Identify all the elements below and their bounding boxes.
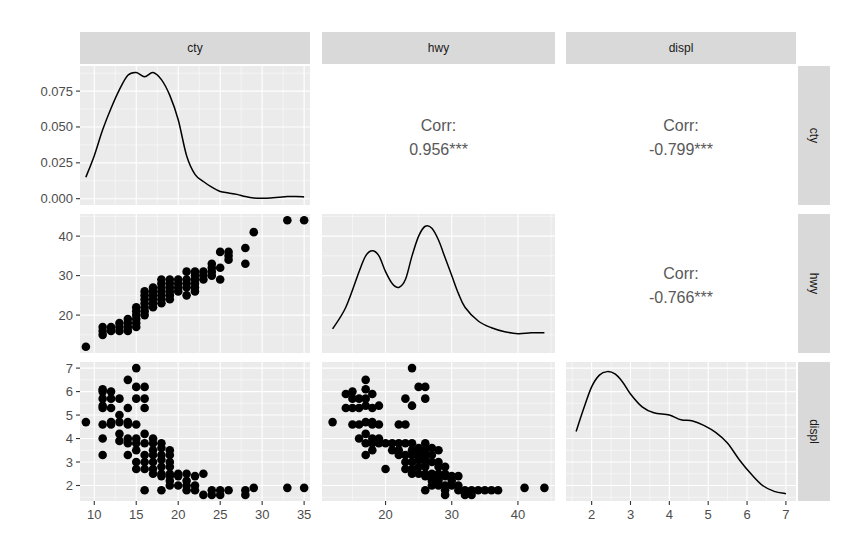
data-point bbox=[140, 439, 149, 448]
data-point bbox=[140, 287, 149, 296]
data-point bbox=[300, 484, 309, 493]
data-point bbox=[199, 469, 208, 478]
data-point bbox=[98, 385, 107, 394]
data-point bbox=[140, 430, 149, 439]
data-point bbox=[300, 216, 309, 225]
data-point bbox=[115, 394, 124, 403]
data-point bbox=[107, 387, 116, 396]
strip-label: hwy bbox=[428, 41, 449, 55]
data-point bbox=[199, 491, 208, 500]
strip-label: displ bbox=[669, 41, 694, 55]
y-tick-label: 0.075 bbox=[40, 84, 73, 99]
panel-hwy-hwy bbox=[322, 214, 555, 353]
data-point bbox=[191, 472, 200, 481]
data-point bbox=[191, 267, 200, 276]
data-point bbox=[408, 364, 417, 373]
x-tick-label: 3 bbox=[627, 507, 634, 522]
x-tick-label: 15 bbox=[129, 507, 143, 522]
data-point bbox=[115, 319, 124, 328]
data-point bbox=[149, 283, 158, 292]
panel-displ-displ bbox=[566, 362, 796, 501]
data-point bbox=[434, 446, 443, 455]
data-point bbox=[157, 486, 166, 495]
x-tick-label: 4 bbox=[666, 507, 673, 522]
data-point bbox=[421, 383, 430, 392]
x-axis-cty: 101520253035 bbox=[87, 501, 311, 522]
data-point bbox=[98, 451, 107, 460]
right-strips: ctyhwydispl bbox=[798, 66, 830, 501]
data-point bbox=[124, 418, 133, 427]
y-tick-label: 7 bbox=[66, 361, 73, 376]
data-point bbox=[224, 248, 233, 257]
y-axis-cty: 0.0000.0250.0500.075 bbox=[40, 84, 80, 207]
data-point bbox=[381, 465, 390, 474]
data-point bbox=[283, 484, 292, 493]
panel-cty-cty bbox=[80, 66, 310, 205]
data-point bbox=[249, 228, 258, 237]
x-tick-label: 35 bbox=[297, 507, 311, 522]
data-point bbox=[199, 267, 208, 276]
corr-label: Corr: bbox=[663, 117, 699, 134]
data-point bbox=[283, 216, 292, 225]
data-point bbox=[166, 275, 175, 284]
data-point bbox=[132, 420, 141, 429]
y-tick-label: 4 bbox=[66, 431, 73, 446]
data-point bbox=[540, 484, 549, 493]
data-point bbox=[401, 394, 410, 403]
data-point bbox=[149, 434, 158, 443]
data-point bbox=[115, 430, 124, 439]
data-point bbox=[328, 418, 337, 427]
data-point bbox=[520, 484, 529, 493]
data-point bbox=[107, 404, 116, 413]
corr-value: -0.799*** bbox=[649, 141, 713, 158]
data-point bbox=[454, 472, 463, 481]
data-point bbox=[249, 484, 258, 493]
corr-value: 0.956*** bbox=[409, 141, 468, 158]
data-point bbox=[182, 267, 191, 276]
data-point bbox=[124, 376, 133, 385]
strip-top-displ: displ bbox=[566, 32, 796, 64]
data-point bbox=[132, 383, 141, 392]
data-point bbox=[375, 420, 384, 429]
data-point bbox=[224, 486, 233, 495]
data-point bbox=[375, 401, 384, 410]
data-point bbox=[361, 376, 370, 385]
x-tick-label: 5 bbox=[705, 507, 712, 522]
data-point bbox=[441, 462, 450, 471]
y-axis-hwy: 203040 bbox=[59, 229, 80, 323]
data-point bbox=[494, 486, 503, 495]
data-point bbox=[132, 303, 141, 312]
data-point bbox=[216, 248, 225, 257]
strip-label: hwy bbox=[807, 273, 821, 294]
data-point bbox=[216, 263, 225, 272]
x-tick-label: 20 bbox=[171, 507, 185, 522]
data-point bbox=[107, 418, 116, 427]
data-point bbox=[132, 364, 141, 373]
x-tick-label: 2 bbox=[588, 507, 595, 522]
data-point bbox=[182, 469, 191, 478]
x-axes: 101520253035203040234567 bbox=[87, 501, 789, 522]
data-point bbox=[82, 418, 91, 427]
data-point bbox=[124, 434, 133, 443]
data-point bbox=[107, 323, 116, 332]
x-tick-label: 30 bbox=[445, 507, 459, 522]
y-tick-label: 6 bbox=[66, 384, 73, 399]
corr-value: -0.766*** bbox=[649, 289, 713, 306]
panel-cty-displ bbox=[566, 66, 796, 205]
y-tick-label: 20 bbox=[59, 308, 73, 323]
y-tick-label: 5 bbox=[66, 408, 73, 423]
data-point bbox=[216, 275, 225, 284]
data-point bbox=[140, 451, 149, 460]
data-point bbox=[157, 275, 166, 284]
data-point bbox=[182, 291, 191, 300]
strip-top-cty: cty bbox=[80, 32, 310, 64]
data-point bbox=[348, 387, 357, 396]
y-tick-label: 0.050 bbox=[40, 119, 73, 134]
data-point bbox=[174, 481, 183, 490]
y-tick-label: 0.025 bbox=[40, 155, 73, 170]
strip-top-hwy: hwy bbox=[322, 32, 555, 64]
data-point bbox=[368, 390, 377, 399]
x-axis-displ: 234567 bbox=[588, 501, 789, 522]
data-point bbox=[82, 342, 91, 351]
data-point bbox=[401, 420, 410, 429]
